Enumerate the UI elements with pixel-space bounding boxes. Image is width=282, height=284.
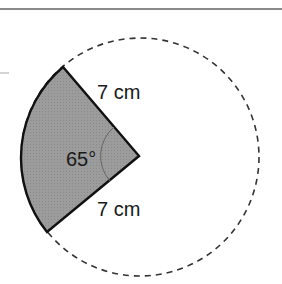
radius-label-bottom: 7 cm xyxy=(97,198,140,220)
radius-label-top: 7 cm xyxy=(97,81,140,103)
angle-label: 65° xyxy=(66,148,96,170)
sector-diagram: 65° 7 cm 7 cm xyxy=(0,0,282,284)
